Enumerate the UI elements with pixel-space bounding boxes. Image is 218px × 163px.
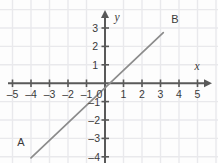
y-tick-label-neg2: –2	[88, 114, 100, 126]
x-tick-label-neg4: –4	[25, 88, 37, 100]
point-label-a: A	[17, 136, 25, 148]
x-tick-label-3: 3	[158, 88, 164, 100]
x-tick-label-1: 1	[121, 88, 127, 100]
y-tick-label-neg3: –3	[88, 132, 100, 144]
x-axis-title: x	[193, 60, 200, 72]
y-tick-label-neg1: –1	[88, 96, 100, 108]
x-tick-label-2: 2	[139, 88, 145, 100]
y-tick-label-3: 3	[92, 22, 98, 34]
y-tick-label-1: 1	[92, 59, 98, 71]
graph-canvas: –5 –4 –3 –2 –1 0 1 2 3 4 5 3 2 1 –1 –2 –…	[0, 0, 218, 163]
x-tick-label-5: 5	[195, 88, 201, 100]
x-tick-label-neg2: –2	[62, 88, 74, 100]
y-axis-title: y	[113, 11, 120, 24]
x-tick-label-neg5: –5	[7, 88, 19, 100]
x-tick-label-4: 4	[176, 88, 182, 100]
y-tick-label-neg4: –4	[88, 151, 100, 163]
x-tick-label-neg3: –3	[44, 88, 56, 100]
point-label-b: B	[171, 13, 178, 25]
y-tick-label-2: 2	[92, 40, 98, 52]
coordinate-grid-figure: –5 –4 –3 –2 –1 0 1 2 3 4 5 3 2 1 –1 –2 –…	[0, 0, 218, 163]
